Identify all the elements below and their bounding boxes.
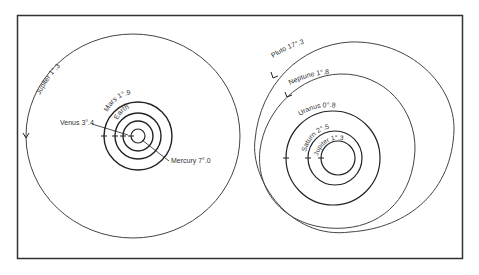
orbit-saturn: [308, 131, 362, 185]
arrow-icon: [285, 92, 292, 97]
orbit-venus: [123, 121, 153, 151]
label-jupiter-left: Jupiter 1°.3: [35, 62, 62, 96]
orbit-inclination-figure: Jupiter 1°.3 Mars 1°.9 Earth Venus 3°.4 …: [0, 0, 479, 275]
label-jupiter-right: Jupiter 1°.3: [312, 134, 344, 157]
orbit-pluto: [255, 42, 454, 233]
arrow-icon: [271, 72, 278, 78]
label-pluto: Pluto 17°.3: [270, 38, 305, 59]
label-neptune: Neptune 1°.8: [287, 68, 329, 86]
left-orbit-diagram: Jupiter 1°.3 Mars 1°.9 Earth Venus 3°.4 …: [23, 34, 240, 238]
orbit-uranus: [286, 111, 380, 205]
right-orbit-diagram: Pluto 17°.3 Neptune 1°.8 Uranus 0°.8 Sat…: [255, 38, 454, 233]
label-venus: Venus 3°.4: [60, 119, 94, 126]
leader-venus: [92, 124, 128, 135]
label-mercury: Mercury 7°.0: [171, 157, 211, 165]
orbit-jupiter-right: [321, 141, 355, 175]
